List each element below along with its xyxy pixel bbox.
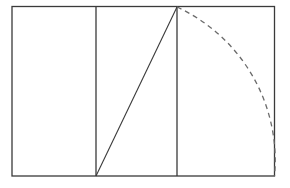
diagram-root [0,0,290,188]
canvas-background [0,0,290,188]
geometric-construction-figure [0,0,290,188]
